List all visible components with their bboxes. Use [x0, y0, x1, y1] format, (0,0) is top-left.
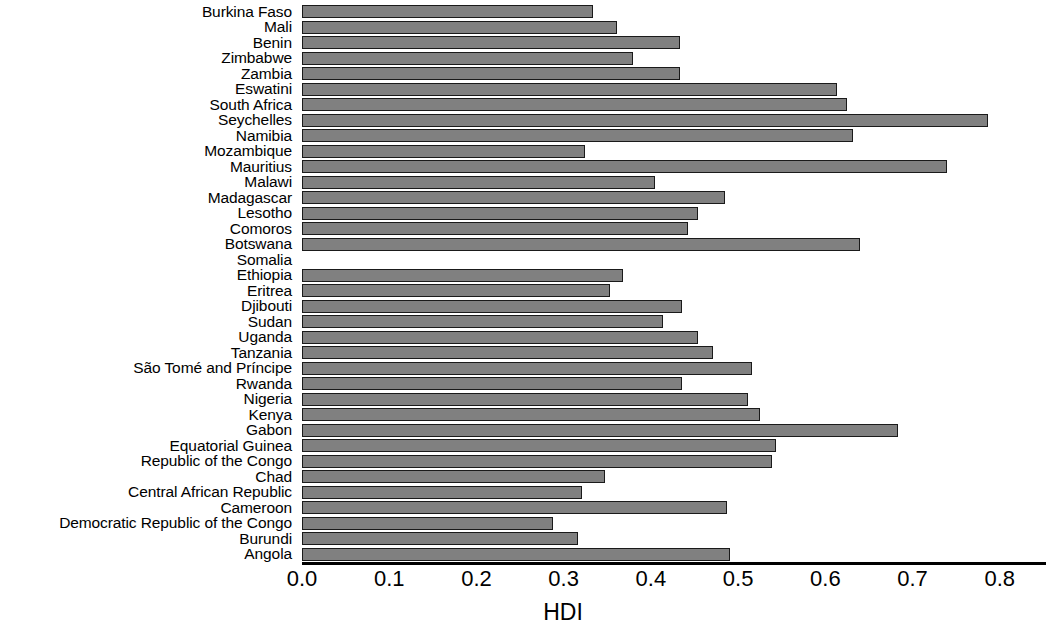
category-label: Madagascar	[0, 190, 296, 205]
bar-row	[302, 516, 1046, 532]
category-label: Democratic Republic of the Congo	[0, 515, 296, 530]
bar	[302, 98, 847, 111]
bar	[302, 36, 680, 49]
bar	[302, 517, 553, 530]
category-label: Malawi	[0, 174, 296, 189]
bar	[302, 21, 617, 34]
bar	[302, 501, 727, 514]
bar-row	[302, 206, 1046, 222]
bar	[302, 346, 713, 359]
category-label: Nigeria	[0, 391, 296, 406]
x-tick-label: 0.1	[374, 566, 405, 592]
bar-row	[302, 221, 1046, 237]
bar-row	[302, 128, 1046, 144]
category-label: Zimbabwe	[0, 50, 296, 65]
bar	[302, 532, 578, 545]
bar-row	[302, 51, 1046, 67]
category-label: Comoros	[0, 221, 296, 236]
category-label: Gabon	[0, 422, 296, 437]
category-label: Rwanda	[0, 376, 296, 391]
category-label: Kenya	[0, 407, 296, 422]
bar	[302, 315, 663, 328]
bar-row	[302, 4, 1046, 20]
x-tick-label: 0.8	[984, 566, 1015, 592]
category-label: South Africa	[0, 97, 296, 112]
bar	[302, 145, 585, 158]
x-tick-label: 0.7	[897, 566, 928, 592]
x-tick-label: 0.2	[461, 566, 492, 592]
bar-row	[302, 485, 1046, 501]
x-axis-line	[302, 562, 1046, 565]
x-axis-title: HDI	[0, 598, 1046, 626]
bar-row	[302, 66, 1046, 82]
bar	[302, 470, 605, 483]
bar	[302, 284, 610, 297]
bar	[302, 207, 698, 220]
plot-area	[302, 4, 1046, 562]
x-tick-label: 0.6	[810, 566, 841, 592]
x-tick-label: 0.5	[723, 566, 754, 592]
category-label: Seychelles	[0, 112, 296, 127]
category-label: Burkina Faso	[0, 4, 296, 19]
category-label: Benin	[0, 35, 296, 50]
bar	[302, 67, 680, 80]
bar-row	[302, 407, 1046, 423]
category-label: Lesotho	[0, 205, 296, 220]
category-label: Mali	[0, 19, 296, 34]
category-label: Zambia	[0, 66, 296, 81]
category-label: Namibia	[0, 128, 296, 143]
bar-row	[302, 361, 1046, 377]
category-label: Central African Republic	[0, 484, 296, 499]
bar-row	[302, 299, 1046, 315]
bar-row	[302, 547, 1046, 563]
x-axis-title-text: HDI	[543, 598, 583, 626]
bar	[302, 377, 682, 390]
bar-row	[302, 82, 1046, 98]
x-axis-tick-labels: 0.00.10.20.30.40.50.60.70.8	[0, 566, 1046, 596]
bar-row	[302, 392, 1046, 408]
bar	[302, 486, 582, 499]
category-label: São Tomé and Príncipe	[0, 360, 296, 375]
bar	[302, 393, 748, 406]
category-label: Eritrea	[0, 283, 296, 298]
bar	[302, 129, 853, 142]
bar-row	[302, 454, 1046, 470]
category-label: Republic of the Congo	[0, 453, 296, 468]
bar-row	[302, 438, 1046, 454]
bar-row	[302, 330, 1046, 346]
bar-row	[302, 469, 1046, 485]
bar	[302, 455, 772, 468]
x-tick-label: 0.4	[636, 566, 667, 592]
bar-row	[302, 97, 1046, 113]
bar	[302, 191, 725, 204]
bar-row	[302, 252, 1046, 268]
bar-row	[302, 345, 1046, 361]
bar	[302, 238, 860, 251]
category-label: Burundi	[0, 531, 296, 546]
bar	[302, 5, 593, 18]
bar	[302, 408, 760, 421]
bar-row	[302, 190, 1046, 206]
category-label: Equatorial Guinea	[0, 438, 296, 453]
category-label: Botswana	[0, 236, 296, 251]
category-axis-labels: Burkina FasoMaliBeninZimbabweZambiaEswat…	[0, 4, 296, 562]
bar-row	[302, 144, 1046, 160]
x-tick-label: 0.3	[548, 566, 579, 592]
bar-row	[302, 500, 1046, 516]
bar-row	[302, 159, 1046, 175]
bar	[302, 424, 898, 437]
category-label: Eswatini	[0, 81, 296, 96]
bar	[302, 176, 655, 189]
bar	[302, 439, 776, 452]
bar-row	[302, 283, 1046, 299]
bar	[302, 114, 988, 127]
bar	[302, 548, 730, 561]
bar-row	[302, 20, 1046, 36]
category-label: Mozambique	[0, 143, 296, 158]
bar-row	[302, 237, 1046, 253]
category-label: Chad	[0, 469, 296, 484]
bar-row	[302, 175, 1046, 191]
category-label: Djibouti	[0, 298, 296, 313]
bar	[302, 269, 623, 282]
bar	[302, 52, 633, 65]
